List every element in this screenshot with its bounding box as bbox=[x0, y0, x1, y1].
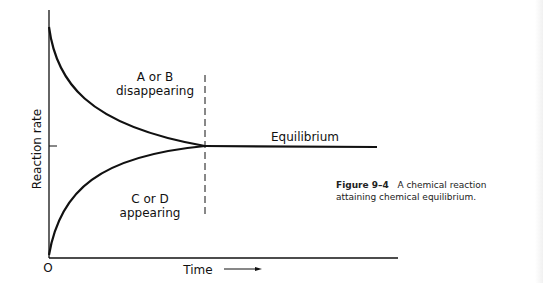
lower-label-line2: appearing bbox=[95, 206, 205, 220]
upper-label: A or B disappearing bbox=[100, 70, 210, 98]
origin-label: O bbox=[40, 261, 56, 275]
figure-caption: Figure 9–4 A chemical reaction attaining… bbox=[336, 179, 486, 203]
lower-label-line1: C or D bbox=[95, 192, 205, 206]
caption-line2: attaining chemical equilibrium. bbox=[336, 191, 486, 203]
x-axis-label: Time bbox=[178, 263, 218, 277]
lower-label: C or D appearing bbox=[95, 192, 205, 220]
upper-label-line2: disappearing bbox=[100, 84, 210, 98]
y-axis-label: Reaction rate bbox=[30, 104, 44, 194]
figure-number: Figure 9–4 bbox=[336, 180, 389, 190]
time-arrow-head bbox=[255, 267, 262, 271]
equilibrium-line bbox=[205, 146, 377, 147]
page-edge-shadow bbox=[535, 0, 543, 283]
equilibrium-label: Equilibrium bbox=[265, 130, 345, 144]
caption-line1: A chemical reaction bbox=[397, 180, 486, 190]
upper-label-line1: A or B bbox=[100, 70, 210, 84]
